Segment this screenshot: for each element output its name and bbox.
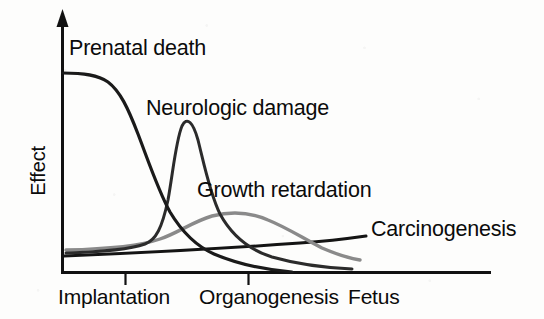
x-axis-tick-label-fetus: Fetus [348, 286, 400, 307]
y-axis-label: Effect [28, 146, 48, 196]
x-axis-tick-label-implantation: Implantation [58, 286, 170, 307]
series-label-prenatal-death: Prenatal death [69, 38, 206, 60]
series-label-carcinogenesis: Carcinogenesis [371, 219, 516, 241]
series-label-growth-retardation: Growth retardation [197, 180, 371, 202]
series-label-neurologic-damage: Neurologic damage [146, 98, 329, 120]
y-axis-arrowhead [57, 9, 69, 27]
x-axis-tick-label-organogenesis: Organogenesis [199, 286, 339, 307]
teratogenesis-effect-chart: Prenatal death Neurologic damage Growth … [0, 0, 544, 319]
